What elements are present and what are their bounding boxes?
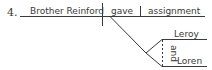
fork-upper xyxy=(146,40,162,54)
direct-object-word: assignment xyxy=(148,6,201,16)
sentence-diagram: 4. Brother Reinford gave assignment Lero… xyxy=(0,0,212,70)
indirect-object-word-2: Loren xyxy=(177,56,202,66)
indirect-object-diagonal xyxy=(110,17,146,54)
item-number: 4. xyxy=(7,6,18,19)
indirect-object-word-1: Leroy xyxy=(174,29,199,39)
conjunction-word: and xyxy=(169,45,179,62)
subject-word: Brother Reinford xyxy=(30,6,104,16)
fork-lower xyxy=(146,53,162,67)
verb-word: gave xyxy=(111,6,134,16)
